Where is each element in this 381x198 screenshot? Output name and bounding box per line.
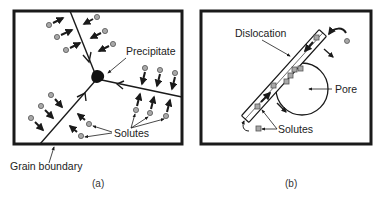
dislocation-label: Dislocation [235, 27, 287, 39]
precipitate-icon [91, 70, 104, 83]
grain-boundary-label: Grain boundary [10, 160, 83, 172]
panel-b-caption: (b) [285, 178, 297, 189]
panel-a: Precipitate Solutes Grain boundary (a) [10, 11, 182, 189]
pore-label: Pore [335, 83, 357, 95]
grain-boundary-lines [40, 11, 182, 144]
panel-a-caption: (a) [92, 178, 104, 189]
solutes-label-a: Solutes [114, 127, 149, 139]
solutes-label-b: Solutes [278, 123, 313, 135]
figure: Precipitate Solutes Grain boundary (a) [0, 0, 381, 198]
precipitate-label: Precipitate [126, 45, 176, 57]
leader-lines-a [49, 58, 164, 163]
panel-b: Dislocation Pore Solutes (b) [201, 11, 371, 189]
emission-arrows [243, 29, 346, 131]
